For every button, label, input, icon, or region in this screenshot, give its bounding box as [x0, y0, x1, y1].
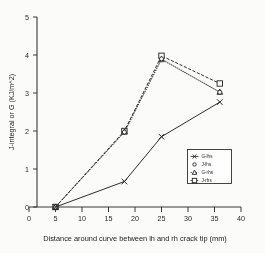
square-marker	[217, 81, 222, 86]
x-tick-label-0: 0	[27, 214, 31, 223]
circle-marker	[193, 163, 196, 166]
square-marker	[192, 178, 196, 182]
y-tick-label-2: 2	[25, 127, 29, 136]
series-g-rhs-line	[56, 60, 220, 207]
legend-label-j-lhs: J-lhs	[202, 162, 212, 167]
legend: G-lhs J-lhs G-rhs J-rhs	[188, 150, 232, 184]
x-marker	[159, 134, 165, 140]
y-tick-label-3: 3	[25, 89, 29, 98]
y-tick-label-1: 1	[25, 165, 29, 174]
x-tick-label-40: 40	[237, 214, 245, 223]
x-tick-label-5: 5	[54, 214, 58, 223]
x-tick-label-25: 25	[158, 214, 166, 223]
series-j-lhs-line	[56, 59, 220, 207]
circle-marker	[122, 130, 126, 134]
legend-entry-j-rhs: J-rhs	[191, 178, 213, 183]
y-axis-ticks: 0 1 2 3 4 5	[25, 13, 37, 212]
x-tick-label-15: 15	[105, 214, 113, 223]
x-tick-label-20: 20	[131, 214, 139, 223]
circle-marker	[218, 90, 222, 94]
y-tick-label-4: 4	[25, 51, 29, 60]
x-tick-label-35: 35	[211, 214, 219, 223]
x-axis-ticks: 0 5 10 15 20 25 30 35 40	[27, 207, 245, 223]
series-j-rhs	[53, 53, 223, 210]
legend-label-g-rhs: G-rhs	[202, 170, 214, 175]
circle-marker	[160, 57, 164, 61]
y-axis-title: J-integral or G (KJ/m^2)	[7, 74, 16, 150]
legend-label-j-rhs: J-rhs	[202, 178, 213, 183]
figure-container: 0 1 2 3 4 5 0 5 10 15 20 25 30 35 40	[0, 0, 265, 253]
chart-svg: 0 1 2 3 4 5 0 5 10 15 20 25 30 35 40	[0, 0, 265, 253]
series-g-rhs	[53, 57, 223, 210]
y-tick-label-0: 0	[25, 203, 29, 212]
legend-label-g-lhs: G-lhs	[202, 154, 214, 159]
y-tick-label-5: 5	[25, 13, 29, 22]
x-axis-title: Distance around curve between lh and rh …	[43, 234, 227, 243]
x-marker	[217, 99, 223, 105]
x-tick-label-30: 30	[184, 214, 192, 223]
x-marker	[122, 179, 128, 185]
legend-entry-g-rhs: G-rhs	[191, 170, 214, 175]
x-tick-label-10: 10	[78, 214, 86, 223]
